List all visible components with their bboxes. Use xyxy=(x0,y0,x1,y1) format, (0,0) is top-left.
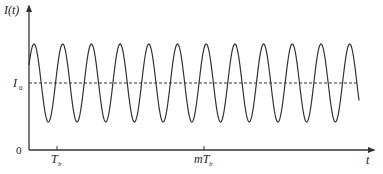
svg-text:I: I xyxy=(12,76,18,90)
tb-label: T b xyxy=(51,152,62,168)
i0-label: I 0 xyxy=(12,76,23,92)
y-axis-label: I(t) xyxy=(3,3,19,17)
x-axis-label: t xyxy=(366,153,370,167)
svg-text:0: 0 xyxy=(19,84,23,92)
chart-canvas: I(t) t 0 I 0 T b mT b xyxy=(0,0,383,174)
svg-text:b: b xyxy=(58,160,62,168)
mtb-label: mT b xyxy=(194,152,213,168)
svg-text:b: b xyxy=(209,160,213,168)
origin-label: 0 xyxy=(16,144,22,156)
